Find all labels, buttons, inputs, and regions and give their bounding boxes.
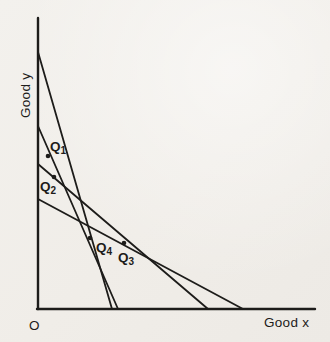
budget-line-4: [38, 199, 243, 309]
origin-label: O: [29, 318, 40, 333]
points-layer: Q1Q2Q4Q3: [40, 139, 135, 267]
point-label-Q3: Q3: [118, 250, 135, 267]
point-marker-Q4: [88, 236, 93, 241]
point-label-Q4: Q4: [96, 240, 113, 257]
budget-line-3: [38, 164, 208, 309]
point-marker-Q1: [46, 154, 51, 159]
figure: Q1Q2Q4Q3 Good y Good x O: [0, 0, 330, 342]
budget-lines-layer: [38, 52, 243, 309]
x-axis-label: Good x: [264, 315, 309, 330]
y-axis-label: Good y: [18, 73, 33, 118]
point-marker-Q2: [52, 175, 57, 180]
figure-svg: Q1Q2Q4Q3 Good y Good x O: [0, 0, 330, 342]
point-label-Q2: Q2: [40, 179, 57, 196]
point-marker-Q3: [122, 241, 127, 246]
